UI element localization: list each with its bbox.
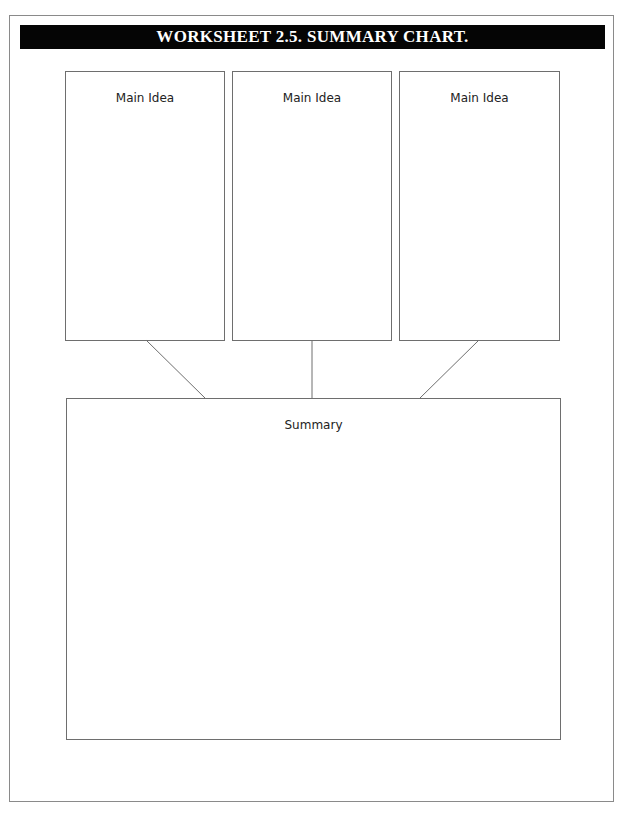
summary-label: Summary [67,418,560,432]
summary-box[interactable]: Summary [66,398,561,740]
